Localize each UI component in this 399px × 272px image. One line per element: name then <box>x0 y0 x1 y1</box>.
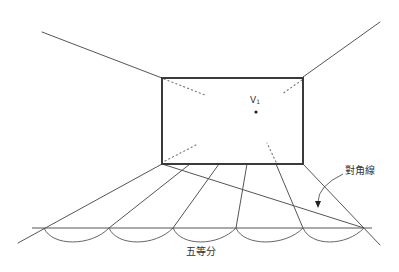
dotted-line <box>282 80 302 94</box>
dotted-line <box>165 145 196 161</box>
floor-line <box>303 164 380 245</box>
arrow-head-icon <box>315 201 321 208</box>
division-arc <box>236 228 303 242</box>
perspective-diagram: V1 對角線 五等分 <box>0 0 399 272</box>
ceiling-line <box>303 22 380 77</box>
diagram-canvas <box>0 0 399 272</box>
division-arc <box>44 228 109 242</box>
dotted-line <box>267 143 276 162</box>
division-arc <box>173 228 236 242</box>
back-wall-rectangle <box>162 78 303 164</box>
division-arc <box>109 228 173 242</box>
floor-line <box>276 164 303 228</box>
division-arcs <box>44 228 364 242</box>
vanishing-point-label: V1 <box>250 96 260 105</box>
dotted-vanishing-lines <box>164 79 302 162</box>
dotted-line <box>164 79 205 95</box>
floor-line <box>173 164 219 228</box>
ceiling-lines <box>42 22 380 78</box>
arrow-leader <box>318 174 343 202</box>
five-equal-label: 五等分 <box>186 247 216 257</box>
ceiling-line <box>42 32 162 78</box>
vanishing-point-subscript: 1 <box>256 98 260 105</box>
vanishing-point-dot <box>254 110 257 113</box>
floor-line <box>109 164 190 228</box>
division-arc <box>303 228 364 242</box>
floor-line <box>236 164 247 228</box>
diagonal-label: 對角線 <box>345 166 375 176</box>
